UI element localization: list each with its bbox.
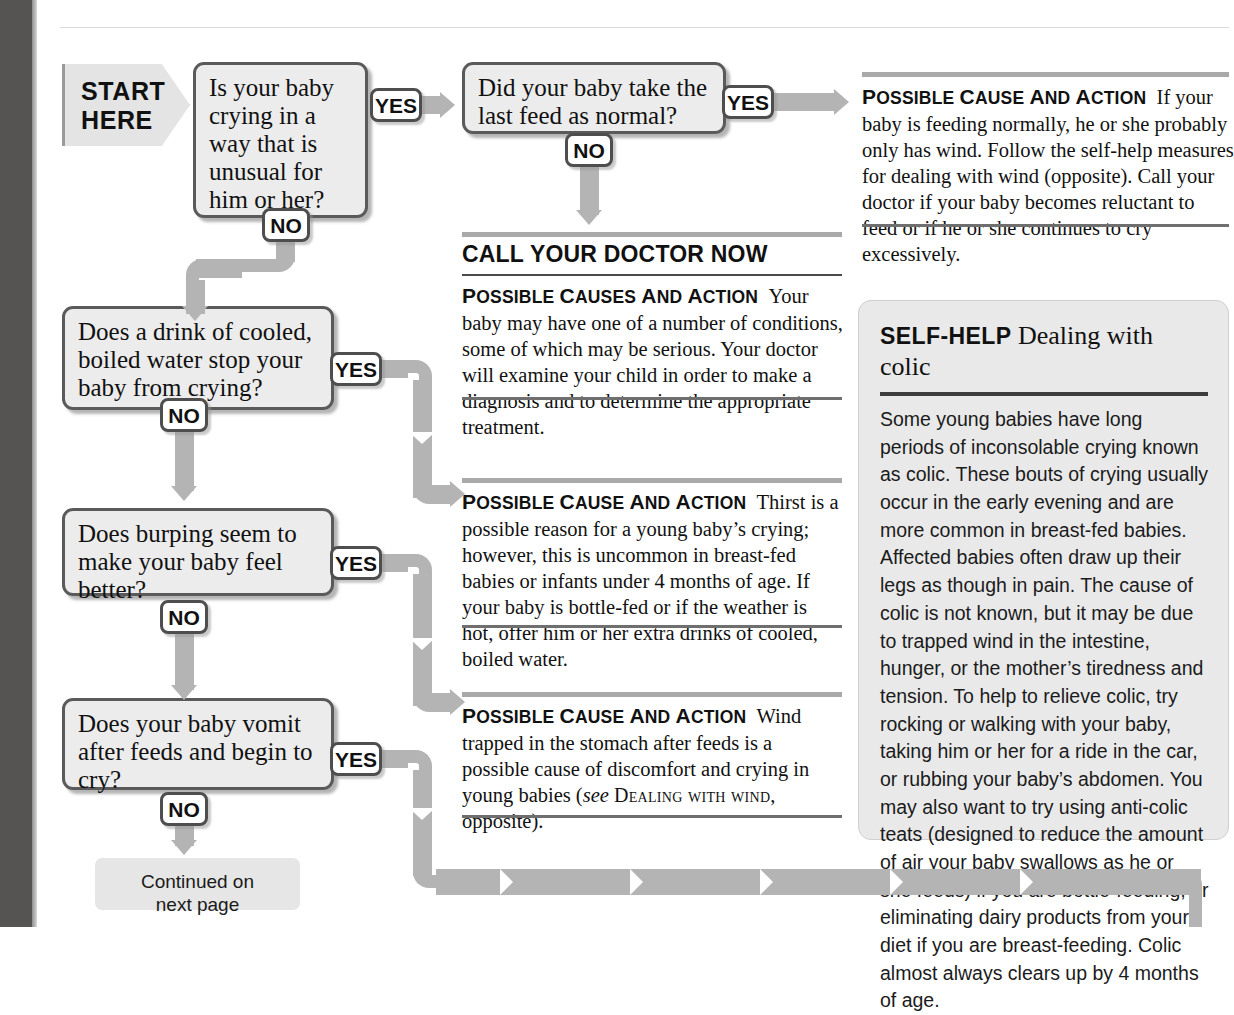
page-gutter-bar xyxy=(0,0,32,927)
q3-no-stem xyxy=(175,428,194,491)
thirst-closing-rule xyxy=(462,625,842,628)
self-help-kicker: SELF-HELP xyxy=(880,323,1011,349)
bus-chevron-3 xyxy=(760,869,773,895)
continued-next-page-box[interactable]: Continued on next page xyxy=(95,858,300,910)
q3-no-badge[interactable]: NO xyxy=(160,398,208,432)
q4-no-badge[interactable]: NO xyxy=(160,600,208,634)
q1-yes-badge[interactable]: YES xyxy=(370,88,422,122)
start-line-2: HERE xyxy=(81,106,190,135)
doctor-now-closing-rule xyxy=(462,397,842,400)
wind-trapped-closing-rule xyxy=(462,815,842,818)
bus-chevron-4 xyxy=(890,869,903,895)
bottom-connector-bus xyxy=(436,869,1201,895)
thirst-rule-top xyxy=(462,478,842,483)
question-box-4[interactable]: Does burping seem to make your baby feel… xyxy=(62,508,334,596)
self-help-title: SELF-HELP Dealing with colic xyxy=(880,320,1200,382)
q1-yes-connector xyxy=(420,96,442,114)
bus-chevron-2 xyxy=(630,869,643,895)
question-box-2[interactable]: Did your baby take the last feed as norm… xyxy=(462,62,726,134)
start-here-marker: START HERE xyxy=(62,64,190,146)
q1-no-badge[interactable]: NO xyxy=(262,208,310,242)
q2-no-badge[interactable]: NO xyxy=(565,133,613,167)
q3-no-arrowhead xyxy=(171,486,197,501)
wind-top-closing-rule xyxy=(862,224,1229,227)
doctor-now-rule-bottom xyxy=(462,274,842,276)
bus-right-elbow xyxy=(1160,869,1202,927)
header-rule xyxy=(60,27,1229,28)
q4-yes-chevron xyxy=(409,638,435,650)
question-box-3[interactable]: Does a drink of cooled, boiled water sto… xyxy=(62,306,334,410)
q5-yes-chevron xyxy=(409,808,435,820)
thirst-lead: POSSIBLE CAUSE AND ACTION xyxy=(462,493,746,513)
self-help-rule xyxy=(880,392,1208,396)
bus-chevron-5 xyxy=(1020,869,1033,895)
q2-yes-badge[interactable]: YES xyxy=(722,85,774,119)
wind-top-rule xyxy=(862,72,1229,77)
q4-yes-arrowhead xyxy=(450,689,465,715)
q4-no-arrowhead xyxy=(171,685,197,700)
doctor-now-rule-top xyxy=(462,232,842,237)
q3-yes-chevron xyxy=(409,432,435,444)
wind-trapped-lead: POSSIBLE CAUSE AND ACTION xyxy=(462,707,746,727)
doctor-now-body: Your baby may have one of a number of co… xyxy=(462,285,843,438)
q4-yes-badge[interactable]: YES xyxy=(330,546,382,580)
q1-yes-arrowhead xyxy=(440,92,455,118)
wind-trapped-crossref: Dealing with wind xyxy=(614,784,770,806)
doctor-now-paragraph: POSSIBLE CAUSES AND ACTION Your baby may… xyxy=(462,283,843,440)
q3-yes-arrowhead xyxy=(450,481,465,507)
question-box-5[interactable]: Does your baby vomit after feeds and beg… xyxy=(62,698,334,790)
doctor-now-lead: POSSIBLE CAUSES AND ACTION xyxy=(462,287,758,307)
question-box-1[interactable]: Is your baby crying in a way that is unu… xyxy=(193,62,368,218)
q5-yes-badge[interactable]: YES xyxy=(330,742,382,776)
q5-no-badge[interactable]: NO xyxy=(160,792,208,826)
q2-yes-connector xyxy=(772,93,836,111)
q2-no-stem xyxy=(580,163,599,215)
doctor-now-heading: CALL YOUR DOCTOR NOW xyxy=(462,241,842,268)
q2-no-arrowhead xyxy=(576,210,602,225)
q4-no-stem xyxy=(175,630,194,690)
thirst-paragraph: POSSIBLE CAUSE AND ACTION Thirst is a po… xyxy=(462,489,843,672)
wind-trapped-see: see xyxy=(583,784,609,806)
continued-line-1: Continued on xyxy=(95,870,300,893)
q5-no-arrowhead xyxy=(171,840,197,855)
wind-top-lead: POSSIBLE CAUSE AND ACTION xyxy=(862,88,1146,108)
page-gutter-edge xyxy=(32,0,37,927)
q3-yes-badge[interactable]: YES xyxy=(330,352,382,386)
wind-top-body: If your baby is feeding normally, he or … xyxy=(862,86,1234,265)
wind-top-paragraph: POSSIBLE CAUSE AND ACTION If your baby i… xyxy=(862,84,1234,267)
q1-no-arrowhead xyxy=(182,306,208,321)
continued-line-2: next page xyxy=(95,893,300,916)
start-line-1: START xyxy=(81,77,190,106)
bus-chevron-1 xyxy=(500,869,513,895)
thirst-body: Thirst is a possible reason for a young … xyxy=(462,491,839,670)
wind-trapped-rule-top xyxy=(462,692,842,697)
q2-yes-arrowhead xyxy=(834,89,849,115)
